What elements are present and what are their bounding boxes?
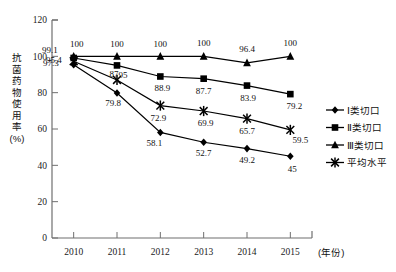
series-layer	[70, 52, 294, 160]
data-point-label: 100	[154, 39, 168, 49]
series-point	[287, 152, 294, 160]
y-axis-title-char: 率	[6, 121, 28, 133]
data-point-label: 65.7	[239, 126, 255, 136]
data-point-label: 100	[197, 38, 211, 48]
data-point-label: 97.3	[43, 58, 59, 68]
y-axis-title-char: (%)	[6, 133, 28, 145]
data-point-label: 87	[110, 69, 120, 79]
data-point-label: 58.1	[146, 138, 162, 148]
x-tick-label: 2012	[151, 247, 170, 257]
chart-legend: Ⅰ类切口Ⅱ类切口Ⅲ类切口平均水平	[326, 105, 387, 169]
series-line	[74, 58, 291, 94]
data-point-label: 87.7	[196, 86, 212, 96]
data-point-label: 95	[119, 70, 129, 80]
y-axis-title-char: 物	[6, 87, 28, 99]
y-axis-title-char: 用	[6, 110, 28, 122]
series-point	[286, 52, 294, 60]
x-tick-label: 2014	[238, 247, 257, 257]
legend-label: Ⅱ类切口	[347, 122, 382, 133]
y-tick-label: 60	[38, 124, 48, 134]
data-point-label: 45	[288, 164, 298, 174]
x-axis-title: (年份)	[318, 247, 344, 258]
legend-label: Ⅰ类切口	[347, 105, 380, 116]
series-point	[157, 73, 164, 80]
y-tick-label: 120	[33, 15, 48, 25]
legend-item[interactable]: Ⅰ类切口	[326, 105, 380, 116]
series-point	[200, 75, 207, 82]
data-point-label: 52.7	[196, 148, 212, 158]
x-tick-label: 2013	[194, 247, 213, 257]
line-chart-plot: 020406080100120 201020112012201320142015…	[0, 0, 396, 272]
y-axis-title-char: 使	[6, 98, 28, 110]
legend-item[interactable]: 平均水平	[326, 157, 387, 168]
data-point-label: 100	[110, 39, 124, 49]
data-point-label: 59.5	[292, 135, 308, 145]
series-line	[74, 61, 291, 130]
y-tick-label: 20	[38, 197, 48, 207]
data-point-label: 49.2	[239, 155, 255, 165]
series-point	[114, 62, 121, 69]
x-tick-label: 2010	[64, 247, 83, 257]
data-point-label: 79.8	[105, 98, 121, 108]
data-point-label: 83.9	[240, 93, 256, 103]
x-tick-label: 2015	[281, 247, 300, 257]
data-point-label: 100	[284, 38, 298, 48]
x-tick-group: 201020112012201320142015	[64, 232, 300, 257]
y-tick-label: 0	[42, 233, 47, 243]
data-point-label: 99.1	[42, 45, 58, 55]
data-point-label: 96.4	[239, 44, 255, 54]
series-cross	[70, 56, 294, 135]
chart-figure: 抗 菌 药 物 使 用 率 (%) 020406080100120 201020…	[0, 0, 396, 272]
legend-item[interactable]: Ⅱ类切口	[326, 122, 382, 133]
x-tick-label: 2011	[108, 247, 127, 257]
y-tick-label: 40	[38, 161, 48, 171]
series-line	[74, 56, 291, 63]
legend-label: Ⅲ类切口	[347, 140, 384, 151]
data-label-layer: 95.479.858.152.749.24599.19588.987.783.9…	[42, 38, 309, 174]
data-point-label: 88.9	[154, 83, 170, 93]
y-axis-title-char: 菌	[6, 64, 28, 76]
series-point	[244, 82, 251, 89]
series-triangle	[70, 52, 294, 66]
y-axis-title-char: 抗	[6, 52, 28, 64]
series-diamond	[70, 61, 293, 160]
legend-marker-diamond-icon	[332, 106, 339, 114]
y-tick-label: 80	[38, 88, 48, 98]
legend-label: 平均水平	[347, 157, 387, 168]
data-point-label: 69.9	[198, 118, 214, 128]
data-point-label: 72.9	[150, 113, 166, 123]
legend-item[interactable]: Ⅲ类切口	[326, 140, 384, 151]
y-axis-title-char: 药	[6, 75, 28, 87]
series-point	[200, 138, 207, 146]
data-point-label: 79.2	[286, 101, 302, 111]
legend-marker-square-icon	[332, 124, 339, 131]
data-point-label: 100	[70, 39, 84, 49]
series-point	[244, 145, 251, 153]
y-axis-title: 抗 菌 药 物 使 用 率 (%)	[6, 52, 28, 144]
series-point	[287, 91, 294, 98]
series-line	[74, 65, 291, 157]
chart-axes	[52, 20, 312, 238]
